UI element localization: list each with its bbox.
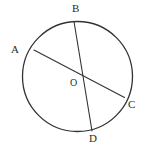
point-label-a: A: [11, 44, 19, 55]
point-label-b: B: [72, 3, 79, 14]
point-label-o: O: [70, 77, 77, 88]
main-circle: [23, 22, 133, 132]
point-label-c: C: [128, 99, 135, 110]
point-label-d: D: [89, 133, 97, 144]
chord-ac: [34, 50, 125, 98]
geometry-canvas: [0, 0, 145, 150]
geometry-figure: A B C D O: [0, 0, 145, 150]
